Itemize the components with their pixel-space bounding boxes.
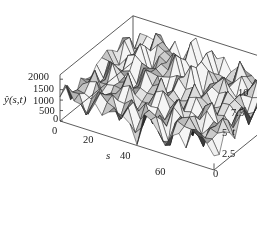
t-axis-label: t (232, 126, 235, 137)
s-tick-label: 60 (155, 167, 166, 178)
s-tick-label: 40 (120, 151, 131, 162)
z-tick-label: 0 (53, 114, 58, 125)
z-tick-label: 2000 (28, 72, 49, 83)
t-tick-label: 7.5 (231, 108, 244, 119)
t-tick-label: 0 (213, 169, 218, 180)
z-axis-label: ŷ(s,t) (4, 94, 26, 105)
s-axis-label: s (106, 150, 110, 161)
t-tick-label: 5 (222, 128, 227, 139)
s-tick-label: 20 (83, 135, 94, 146)
t-tick-label: 2.5 (222, 149, 235, 160)
origin-tick-label: 0 (52, 126, 57, 137)
t-tick-label: 10 (238, 88, 249, 99)
z-tick-label: 1500 (33, 84, 54, 95)
